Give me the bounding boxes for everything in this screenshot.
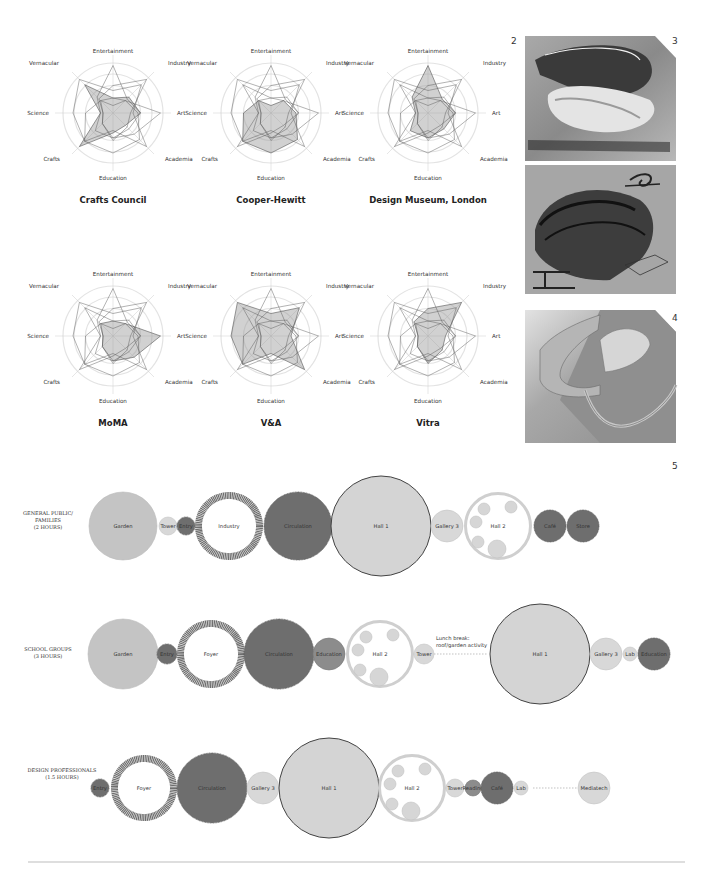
journey-node-label: Hall 1 xyxy=(322,785,337,791)
journey-node-education: Education xyxy=(313,638,345,670)
radar-chart: EntertainmentIndustryArtAcademiaEducatio… xyxy=(342,271,507,428)
journey-node-entry: Entry xyxy=(177,517,195,535)
journey-node-label: Café xyxy=(544,523,556,529)
radar-chart: EntertainmentIndustryArtAcademiaEducatio… xyxy=(27,48,192,205)
radar-axis-label-science: Science xyxy=(27,333,49,339)
visitor-journey-diagrams: GENERAL PUBLIC/FAMILIES(2 HOURS)GardenTo… xyxy=(23,476,670,838)
journey-node-label: Tower xyxy=(446,785,463,791)
journey-row-label: (1.5 HOURS) xyxy=(45,774,78,780)
journey-node-circulation: Circulation xyxy=(244,619,314,689)
concept-sketch-image xyxy=(525,165,676,294)
radar-axis-label-crafts: Crafts xyxy=(201,156,218,162)
radar-axis-label-entertainment: Entertainment xyxy=(251,271,292,277)
radar-axis-label-education: Education xyxy=(414,175,442,181)
journey-node-gallery-3: Gallery 3 xyxy=(247,772,279,804)
radar-axis-label-academia: Academia xyxy=(323,156,351,162)
journey-node-label: Foyer xyxy=(204,651,219,658)
figure-canvas: EntertainmentIndustryArtAcademiaEducatio… xyxy=(0,0,713,887)
journey-row-label: (2 HOURS) xyxy=(34,524,63,530)
radar-chart: EntertainmentIndustryArtAcademiaEducatio… xyxy=(342,48,507,205)
radar-axis-label-science: Science xyxy=(27,110,49,116)
radar-axis-label-vernacular: Vernacular xyxy=(344,60,375,66)
journey-node-lab: Lab xyxy=(514,781,528,795)
journey-node-label: Mediatech xyxy=(581,785,608,791)
journey-node-label: Gallery 3 xyxy=(594,651,617,658)
radar-axis-label-academia: Academia xyxy=(323,379,351,385)
journey-node-reading: Reading xyxy=(462,780,483,796)
radar-highlight-shape xyxy=(243,101,298,153)
journey-node-tower: Tower xyxy=(446,779,464,797)
journey-node-label: Entry xyxy=(93,785,107,792)
image-panels: 2 3 4 xyxy=(511,36,678,443)
journey-row-label: SCHOOL GROUPS xyxy=(24,646,72,652)
radar-axis-label-entertainment: Entertainment xyxy=(408,271,449,277)
radar-axis-label-vernacular: Vernacular xyxy=(29,60,60,66)
journey-node-label: Tower xyxy=(159,523,176,529)
radar-axis-label-crafts: Crafts xyxy=(201,379,218,385)
journey-row: DESIGN PROFESSIONALS(1.5 HOURS)EntryFoye… xyxy=(28,738,610,838)
journey-row-label: (3 HOURS) xyxy=(34,653,63,659)
journey-node-garden: Garden xyxy=(89,492,157,560)
journey-node-foyer: Foyer xyxy=(115,759,174,818)
radar-axis-label-entertainment: Entertainment xyxy=(408,48,449,54)
radar-charts: EntertainmentIndustryArtAcademiaEducatio… xyxy=(27,48,507,428)
journey-node-caf-: Café xyxy=(481,772,513,804)
journey-node-circulation: Circulation xyxy=(264,492,332,560)
journey-node-label: Hall 2 xyxy=(405,785,420,791)
sketch-render-image xyxy=(525,36,676,161)
journey-node-label: Store xyxy=(576,523,590,529)
journey-node-garden: Garden xyxy=(88,619,158,689)
radar-chart-title: V&A xyxy=(261,418,282,428)
journey-node-label: Education xyxy=(316,651,342,657)
radar-axis-label-crafts: Crafts xyxy=(43,156,60,162)
radar-axis-label-education: Education xyxy=(414,398,442,404)
radar-chart: EntertainmentIndustryArtAcademiaEducatio… xyxy=(27,271,192,428)
radar-axis-label-academia: Academia xyxy=(165,379,193,385)
journey-node-label: Gallery 3 xyxy=(435,523,458,530)
journey-node-hall-1: Hall 1 xyxy=(331,476,431,576)
radar-axis-label-vernacular: Vernacular xyxy=(187,283,218,289)
journey-node-hall-1: Hall 1 xyxy=(490,604,590,704)
radar-axis-label-academia: Academia xyxy=(480,156,508,162)
journey-node-foyer: Foyer xyxy=(181,624,242,685)
radar-axis-label-crafts: Crafts xyxy=(43,379,60,385)
journey-node-label: Circulation xyxy=(198,785,226,791)
journey-node-label: Entry xyxy=(160,651,174,658)
journey-node-tower: Tower xyxy=(414,644,434,664)
radar-axis-label-education: Education xyxy=(257,398,285,404)
radar-axis-label-entertainment: Entertainment xyxy=(251,48,292,54)
radar-axis-label-academia: Academia xyxy=(480,379,508,385)
radar-axis-label-entertainment: Entertainment xyxy=(93,48,134,54)
journey-node-entry: Entry xyxy=(157,644,177,664)
radar-chart: EntertainmentIndustryArtAcademiaEducatio… xyxy=(185,271,350,428)
figure-number-3: 3 xyxy=(672,36,678,46)
radar-axis-label-entertainment: Entertainment xyxy=(93,271,134,277)
radar-chart-title: MoMA xyxy=(98,418,128,428)
radar-axis-label-vernacular: Vernacular xyxy=(344,283,375,289)
journey-node-label: Reading xyxy=(462,785,483,792)
radar-chart-title: Cooper-Hewitt xyxy=(236,195,305,205)
radar-axis-label-art: Art xyxy=(492,333,501,339)
journey-node-hall-2: Hall 2 xyxy=(380,756,445,821)
journey-node-label: Hall 1 xyxy=(374,523,389,529)
journey-node-gallery-3: Gallery 3 xyxy=(431,510,463,542)
journey-node-entry: Entry xyxy=(91,779,109,797)
radar-axis-label-industry: Industry xyxy=(483,283,507,290)
journey-node-mediatech: Mediatech xyxy=(578,772,610,804)
radar-axis-label-science: Science xyxy=(342,333,364,339)
lunch-break-note: roof/garden activity xyxy=(436,642,487,649)
radar-axis-label-education: Education xyxy=(99,175,127,181)
radar-axis-label-science: Science xyxy=(342,110,364,116)
radar-axis-label-art: Art xyxy=(492,110,501,116)
journey-node-label: Foyer xyxy=(137,785,152,792)
lunch-break-note: Lunch break: xyxy=(436,635,470,641)
journey-node-label: Garden xyxy=(113,651,132,657)
journey-row-label: DESIGN PROFESSIONALS xyxy=(28,767,98,773)
radar-axis-label-industry: Industry xyxy=(483,60,507,67)
radar-axis-label-science: Science xyxy=(185,110,207,116)
figure-number-4: 4 xyxy=(672,313,678,323)
radar-chart: EntertainmentIndustryArtAcademiaEducatio… xyxy=(185,48,350,205)
journey-node-label: Circulation xyxy=(284,523,312,529)
radar-axis-label-vernacular: Vernacular xyxy=(187,60,218,66)
journey-node-store: Store xyxy=(567,510,599,542)
